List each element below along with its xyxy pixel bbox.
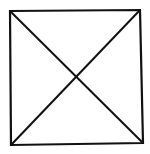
diagram-canvas — [0, 0, 150, 154]
